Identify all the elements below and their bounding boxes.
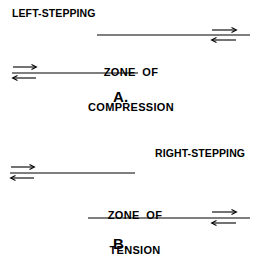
slip-arrow-right-icon [212, 28, 236, 33]
slip-arrow-left-icon [212, 38, 236, 43]
panel-a-zone-label: ZONE OF COMPRESSION [78, 43, 184, 138]
panel-b-stepping-label: RIGHT-STEPPING [155, 148, 245, 159]
panel-a-zone-line-1: ZONE OF [78, 67, 184, 79]
panel-b-letter-label: B. [113, 236, 128, 252]
slip-arrow-right-icon [13, 65, 36, 70]
slip-arrow-left-icon [212, 221, 236, 226]
fault-stepover-diagram: LEFT-STEPPING ZONE OF COMPRESSION A. RIG… [0, 0, 261, 262]
panel-b-zone-label: ZONE OF TENSION [85, 186, 185, 262]
panel-b-zone-line-1: ZONE OF [85, 210, 185, 222]
slip-arrow-left-icon [11, 176, 34, 181]
panel-a-zone-line-2: COMPRESSION [78, 102, 184, 114]
slip-arrow-right-icon [11, 165, 34, 170]
panel-a-letter-label: A. [113, 89, 128, 105]
panel-a-stepping-label: LEFT-STEPPING [12, 8, 96, 19]
slip-arrow-right-icon [212, 210, 236, 215]
panel-b-zone-line-2: TENSION [85, 245, 185, 257]
slip-arrow-left-icon [13, 76, 36, 81]
